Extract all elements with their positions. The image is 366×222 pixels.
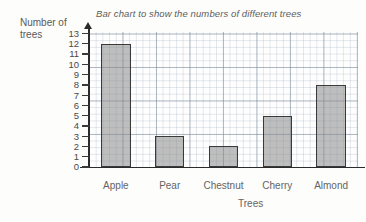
bar-pear [155, 136, 185, 167]
y-tick-4 [82, 125, 89, 126]
y-tick-label-12: 12 [63, 39, 79, 49]
y-tick-label-8: 8 [63, 80, 79, 90]
y-tick-9 [82, 74, 89, 75]
y-tick-0 [82, 166, 89, 167]
bar-chestnut [209, 146, 239, 167]
y-tick-label-7: 7 [63, 91, 79, 101]
y-axis-label-line1: Number of [20, 17, 67, 28]
y-tick-11 [82, 53, 89, 54]
x-axis-label: Trees [238, 198, 263, 209]
y-tick-label-0: 0 [63, 162, 79, 172]
y-tick-label-9: 9 [63, 70, 79, 80]
y-tick-8 [82, 84, 89, 85]
y-tick-label-2: 2 [63, 142, 79, 152]
y-tick-label-5: 5 [63, 111, 79, 121]
y-axis-arrowhead-icon [84, 22, 92, 29]
plot-area [89, 32, 358, 167]
x-tick-label-cherry: Cherry [250, 180, 304, 191]
y-tick-1 [82, 156, 89, 157]
x-tick-label-chestnut: Chestnut [197, 180, 251, 191]
y-tick-5 [82, 115, 89, 116]
x-tick-label-almond: Almond [304, 180, 358, 191]
y-tick-7 [82, 95, 89, 96]
bar-apple [101, 44, 131, 167]
y-tick-6 [82, 105, 89, 106]
bar-chart-figure: Bar chart to show the numbers of differe… [0, 0, 366, 222]
y-tick-10 [82, 64, 89, 65]
y-tick-label-6: 6 [63, 101, 79, 111]
bars-layer [89, 32, 358, 167]
y-tick-label-11: 11 [63, 49, 79, 59]
y-tick-2 [82, 146, 89, 147]
x-tick-label-pear: Pear [143, 180, 197, 191]
bar-cherry [263, 116, 293, 167]
y-tick-label-13: 13 [63, 29, 79, 39]
x-tick-label-apple: Apple [89, 180, 143, 191]
y-tick-label-10: 10 [63, 60, 79, 70]
y-tick-label-3: 3 [63, 132, 79, 142]
y-tick-3 [82, 136, 89, 137]
y-tick-label-1: 1 [63, 152, 79, 162]
y-tick-12 [82, 43, 89, 44]
y-tick-label-4: 4 [63, 121, 79, 131]
chart-title: Bar chart to show the numbers of differe… [96, 8, 358, 19]
x-axis-line [80, 167, 365, 169]
bar-almond [316, 85, 346, 167]
y-tick-13 [82, 33, 89, 34]
